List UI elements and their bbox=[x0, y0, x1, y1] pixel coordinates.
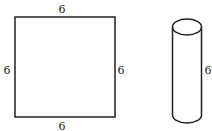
cylinder-height-label: 6 bbox=[205, 64, 212, 77]
square-right-label: 6 bbox=[118, 64, 125, 77]
cylinder-shape bbox=[173, 19, 202, 123]
square-left-label: 6 bbox=[4, 64, 11, 77]
diagram-canvas: 6 6 6 6 6 bbox=[0, 0, 211, 131]
square-top-label: 6 bbox=[59, 3, 66, 16]
square-bottom-label: 6 bbox=[59, 120, 66, 131]
square-shape bbox=[15, 17, 115, 117]
